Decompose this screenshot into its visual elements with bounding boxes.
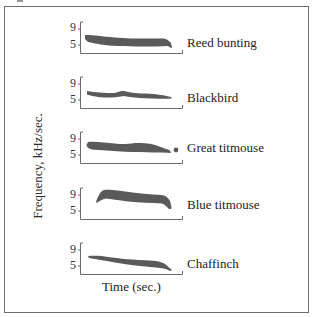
- trace-chaffinch: [88, 256, 172, 271]
- axes-panel-5: [78, 243, 183, 275]
- label-chaffinch: Chaffinch: [187, 256, 239, 272]
- trace-blue-titmouse: [96, 190, 171, 209]
- label-blackbird: Blackbird: [187, 90, 238, 106]
- label-great-titmouse: Great titmouse: [187, 140, 264, 156]
- trace-blackbird: [87, 91, 172, 99]
- label-blue-titmouse: Blue titmouse: [187, 197, 260, 213]
- trace-reed-bunting: [85, 35, 172, 48]
- spectrogram-panels: [0, 0, 314, 317]
- trace-great-titmouse-endpoint: [174, 148, 179, 153]
- label-reed-bunting: Reed bunting: [187, 35, 257, 51]
- x-axis-label: Time (sec.): [102, 279, 161, 295]
- trace-great-titmouse: [87, 142, 172, 153]
